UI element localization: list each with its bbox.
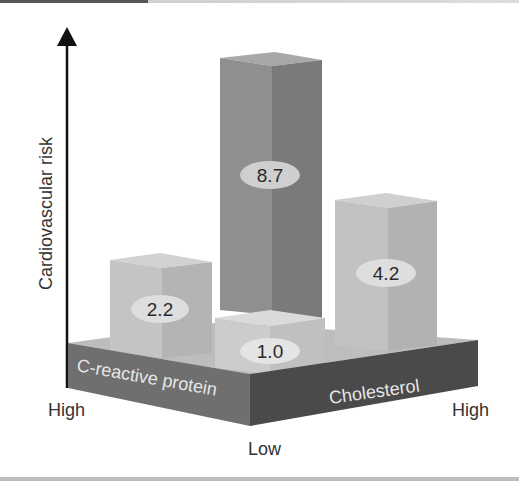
bar-low-crp-low-chol: 1.0 — [215, 310, 325, 374]
crp-high-label: High — [48, 400, 85, 420]
bottom-border — [0, 477, 519, 481]
low-label: Low — [248, 439, 282, 459]
bar-value-label: 4.2 — [373, 263, 399, 284]
chart-3d-bar: Cardiovascular risk 2.2 8.7 4.2 1.0 C-re… — [0, 0, 519, 481]
y-axis-arrow-icon — [57, 27, 77, 46]
bar-value-label: 8.7 — [257, 165, 283, 186]
bar-value-label: 2.2 — [147, 299, 173, 320]
y-axis-label: Cardiovascular risk — [36, 136, 56, 290]
cholesterol-high-label: High — [452, 400, 489, 420]
bar-high-crp-high-chol: 8.7 — [220, 52, 322, 318]
bar-value-label: 1.0 — [257, 341, 283, 362]
bar-low-crp-high-chol: 4.2 — [335, 193, 437, 351]
bar-high-crp-low-chol: 2.2 — [110, 253, 212, 358]
